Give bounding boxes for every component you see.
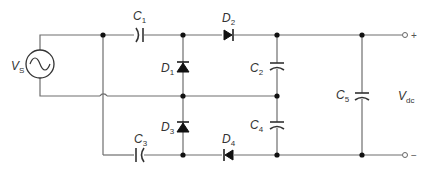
label-d1: D1	[161, 61, 175, 77]
diode-d2-icon	[224, 29, 233, 41]
label-minus: −	[411, 150, 417, 161]
output-terminal-plus	[403, 33, 408, 38]
label-c1: C1	[133, 9, 147, 25]
circuit-diagram: VS C1 C3 C2 C4 C5 D1 D2 D3 D4 Vdc + −	[0, 0, 426, 171]
label-c4: C4	[250, 118, 264, 134]
label-d2: D2	[222, 11, 236, 27]
ac-source-icon	[26, 50, 54, 78]
diode-d4-icon	[224, 149, 233, 161]
capacitor-c4-icon	[270, 122, 284, 129]
label-plus: +	[411, 30, 417, 41]
output-terminal-minus	[403, 153, 408, 158]
label-d4: D4	[222, 132, 236, 148]
label-vs: VS	[11, 59, 24, 75]
capacitor-c2-icon	[270, 63, 284, 70]
diode-d3-icon	[177, 122, 189, 132]
label-vdc: Vdc	[398, 89, 414, 105]
label-c5: C5	[336, 88, 350, 104]
label-d3: D3	[161, 120, 175, 136]
capacitor-c5-icon	[355, 93, 369, 100]
diode-d1-icon	[177, 62, 189, 72]
capacitor-c3-icon	[136, 148, 144, 162]
label-c3: C3	[134, 132, 148, 148]
capacitor-c1-icon	[136, 28, 143, 42]
label-c2: C2	[250, 61, 264, 77]
